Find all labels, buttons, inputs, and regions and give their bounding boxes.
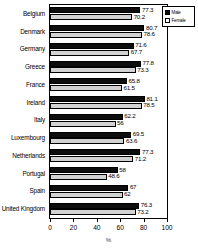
bar-female: 70.2 (50, 14, 167, 20)
category-label: Portugal (0, 165, 47, 183)
bar-rect-female (50, 138, 124, 144)
bar-rect-female (50, 121, 116, 127)
bar-rect-male (50, 96, 145, 102)
bar-rect-female (50, 67, 136, 73)
bar-value-label: 78.6 (143, 30, 154, 38)
bar-female: 48.6 (50, 174, 167, 180)
category-label: Greece (0, 58, 47, 76)
bar-group-row: 65.861.5 (50, 76, 167, 94)
bar-rect-female (50, 209, 136, 215)
category-label: Ireland (0, 94, 47, 112)
category-label: Belgium (0, 5, 47, 23)
bar-value-label: 62.2 (124, 112, 135, 120)
bar-value-label: 62 (124, 190, 130, 198)
x-tick-mark (97, 219, 98, 222)
x-tick-mark (167, 219, 168, 222)
chart-legend: Male Female (162, 6, 195, 27)
x-tick-mark (120, 219, 121, 222)
bar-female: 73.2 (50, 209, 167, 215)
bar-rect-female (50, 103, 142, 109)
bar-group-row: 77.370.2 (50, 5, 167, 23)
legend-item-female: Female (165, 17, 192, 24)
bar-rect-male (50, 185, 128, 191)
x-tick-label: 0 (48, 223, 52, 232)
bar-rows-container: 77.370.280.778.671.667.777.873.365.861.5… (50, 5, 167, 218)
category-label: France (0, 76, 47, 94)
bar-rect-male (50, 61, 141, 67)
bar-male: 67 (50, 185, 167, 191)
category-axis-labels: BelgiumDenmarkGermanyGreeceFranceIreland… (0, 5, 47, 218)
category-label: Italy (0, 112, 47, 130)
bar-rect-male (50, 203, 139, 209)
employment-rate-bar-chart: BelgiumDenmarkGermanyGreeceFranceIreland… (0, 0, 198, 248)
bar-rect-female (50, 50, 129, 56)
category-label: Spain (0, 183, 47, 201)
bar-group-row: 71.667.7 (50, 41, 167, 59)
bar-group-row: 80.778.6 (50, 23, 167, 41)
bar-value-label: 67.7 (131, 48, 142, 56)
bar-rect-female (50, 156, 133, 162)
bar-male: 77.3 (50, 149, 167, 155)
bar-value-label: 56 (117, 119, 123, 127)
bar-group-row: 62.256 (50, 112, 167, 130)
legend-item-male: Male (165, 9, 192, 16)
bar-rect-male (50, 43, 134, 49)
bar-value-label: 70.2 (134, 13, 145, 21)
bar-group-row: 5848.6 (50, 165, 167, 183)
legend-label-male: Male (172, 10, 181, 16)
x-tick-mark (73, 219, 74, 222)
bar-female: 71.2 (50, 156, 167, 162)
bar-group-row: 69.563.6 (50, 129, 167, 147)
bar-male: 71.6 (50, 43, 167, 49)
bar-rect-male (50, 7, 140, 13)
bar-value-label: 58 (119, 166, 125, 174)
x-axis-title: % (49, 236, 168, 244)
category-label: Germany (0, 41, 47, 59)
x-tick-label: 40 (93, 223, 100, 232)
x-axis-tick-labels: 020406080100 (49, 223, 168, 233)
bar-female: 62 (50, 192, 167, 198)
bar-rect-male (50, 78, 127, 84)
bar-group-row: 76.373.2 (50, 200, 167, 218)
bar-female: 73.3 (50, 67, 167, 73)
bar-rect-female (50, 32, 142, 38)
bar-rect-female (50, 85, 122, 91)
bar-rect-male (50, 114, 123, 120)
bar-value-label: 73.2 (137, 208, 148, 216)
x-tick-mark (144, 219, 145, 222)
bar-value-label: 71.2 (135, 155, 146, 163)
bar-male: 62.2 (50, 114, 167, 120)
bar-group-row: 77.873.3 (50, 58, 167, 76)
bar-value-label: 73.3 (137, 66, 148, 74)
bar-rect-male (50, 25, 144, 31)
x-tick-label: 20 (70, 223, 77, 232)
bar-female: 78.6 (50, 32, 167, 38)
bar-male: 65.8 (50, 78, 167, 84)
bar-female: 56 (50, 121, 167, 127)
bar-rect-female (50, 192, 123, 198)
x-tick-label: 100 (161, 223, 172, 232)
legend-swatch-female-icon (165, 18, 170, 23)
bar-male: 77.8 (50, 61, 167, 67)
category-label: Netherlands (0, 147, 47, 165)
bar-female: 61.5 (50, 85, 167, 91)
bar-rect-female (50, 14, 132, 20)
legend-label-female: Female (172, 18, 186, 24)
bar-group-row: 81.178.5 (50, 94, 167, 112)
bar-rect-male (50, 149, 140, 155)
bar-male: 77.3 (50, 7, 167, 13)
bar-male: 69.5 (50, 132, 167, 138)
legend-swatch-male-icon (165, 10, 170, 15)
x-tick-mark (50, 219, 51, 222)
bar-value-label: 48.6 (108, 172, 119, 180)
bar-female: 67.7 (50, 50, 167, 56)
bar-female: 78.5 (50, 103, 167, 109)
bar-value-label: 61.5 (123, 84, 134, 92)
bar-group-row: 77.371.2 (50, 147, 167, 165)
x-tick-label: 80 (140, 223, 147, 232)
category-label: Denmark (0, 23, 47, 41)
category-label: Luxembourg (0, 129, 47, 147)
bar-value-label: 78.5 (143, 101, 154, 109)
category-label: United Kingdom (0, 200, 47, 218)
bar-value-label: 63.6 (126, 137, 137, 145)
